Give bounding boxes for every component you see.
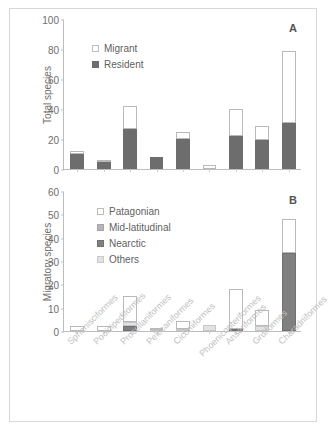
y-tick-mark (61, 262, 64, 263)
bar-segment[interactable] (70, 154, 84, 169)
bar-segment[interactable] (203, 325, 217, 331)
y-tick-mark (61, 140, 64, 141)
panel-b-legend: Patagonian Mid-latitudinal Nearctic Othe… (97, 204, 171, 268)
bar-segment[interactable] (255, 140, 269, 169)
light-gray-square-icon (97, 256, 104, 263)
bar-segment[interactable] (123, 129, 137, 170)
legend-item-migrant: Migrant (92, 41, 143, 55)
legend-label-mid-latitudinal: Mid-latitudinal (109, 222, 171, 233)
bar-group[interactable] (282, 19, 296, 169)
legend-label-nearctic: Nearctic (109, 238, 146, 249)
mid-gray-square-icon (97, 224, 104, 231)
x-tick-mark (209, 169, 210, 172)
legend-label-patagonian: Patagonian (109, 206, 160, 217)
panel-a-axis-title: Total species (42, 45, 53, 145)
bar-segment[interactable] (176, 132, 190, 139)
bar-group[interactable] (203, 19, 217, 169)
panel-a: 020406080100 A Migrant Resident Total sp… (63, 20, 301, 170)
y-tick-mark (61, 192, 64, 193)
x-tick-mark (183, 169, 184, 172)
y-tick-mark (61, 285, 64, 286)
bar-segment[interactable] (255, 126, 269, 140)
y-tick-mark (61, 215, 64, 216)
legend-label-others: Others (109, 254, 139, 265)
panel-b-axis-title: Migratory species (42, 205, 53, 319)
y-tick-mark (61, 308, 64, 309)
legend-item-resident: Resident (92, 57, 143, 71)
legend-label-migrant: Migrant (104, 43, 137, 54)
y-tick-mark (61, 80, 64, 81)
bar-segment[interactable] (229, 109, 243, 136)
panel-b-letter: B (289, 194, 297, 206)
bar-segment[interactable] (70, 151, 84, 154)
filled-square-icon (92, 61, 99, 68)
bar-segment[interactable] (282, 219, 296, 253)
bar-group[interactable] (255, 19, 269, 169)
legend-label-resident: Resident (104, 59, 143, 70)
y-tick-mark (61, 332, 64, 333)
panel-a-letter: A (289, 22, 297, 34)
bar-segment[interactable] (229, 136, 243, 169)
bar-segment[interactable] (97, 162, 111, 169)
x-tick-mark (77, 169, 78, 172)
bar-segment[interactable] (282, 123, 296, 170)
bar-segment[interactable] (97, 160, 111, 162)
bar-segment[interactable] (203, 165, 217, 170)
bar-group[interactable] (150, 19, 164, 169)
x-tick-mark (130, 169, 131, 172)
x-tick-mark (262, 169, 263, 172)
y-tick-label: 0 (53, 165, 59, 176)
x-tick-mark (209, 331, 210, 334)
y-tick-label: 100 (42, 15, 59, 26)
bar-segment[interactable] (176, 139, 190, 169)
x-tick-mark (104, 169, 105, 172)
y-tick-mark (61, 110, 64, 111)
dark-gray-square-icon (97, 240, 104, 247)
y-tick-mark (61, 20, 64, 21)
legend-item-others: Others (97, 252, 171, 266)
x-tick-mark (157, 169, 158, 172)
open-square-icon (97, 208, 104, 215)
y-tick-label: 60 (48, 187, 59, 198)
bar-segment[interactable] (150, 157, 164, 169)
open-square-icon (92, 45, 99, 52)
panel-a-legend: Migrant Resident (92, 41, 143, 73)
bar-group[interactable] (176, 19, 190, 169)
y-tick-label: 0 (53, 327, 59, 338)
x-tick-mark (289, 169, 290, 172)
legend-item-mid-latitudinal: Mid-latitudinal (97, 220, 171, 234)
y-tick-mark (61, 238, 64, 239)
bar-group[interactable] (70, 19, 84, 169)
bar-segment[interactable] (123, 106, 137, 129)
bar-group[interactable] (229, 19, 243, 169)
y-tick-mark (61, 170, 64, 171)
legend-item-nearctic: Nearctic (97, 236, 171, 250)
bar-group[interactable] (70, 191, 84, 331)
legend-item-patagonian: Patagonian (97, 204, 171, 218)
bar-segment[interactable] (282, 51, 296, 123)
x-tick-mark (236, 169, 237, 172)
y-tick-mark (61, 50, 64, 51)
